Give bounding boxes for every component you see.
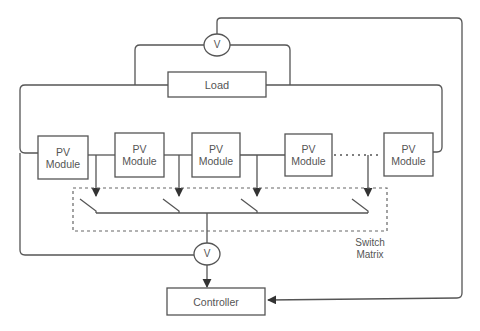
pv-module-3-label: PV Module <box>192 133 240 177</box>
switch-matrix-box <box>73 188 387 231</box>
pv-module-3-line2: Module <box>199 155 233 167</box>
pv-module-2-line1: PV <box>132 143 146 155</box>
pv-module-5-label: PV Module <box>384 133 433 176</box>
switch-4 <box>352 199 368 213</box>
pv-module-5-line2: Module <box>391 155 425 167</box>
pv-module-1-label: PV Module <box>38 136 88 179</box>
voltmeter-top-label: V <box>204 34 230 56</box>
switch-matrix-line1: Switch <box>355 237 384 249</box>
pv-module-2-label: PV Module <box>115 133 164 177</box>
load-label: Load <box>168 72 266 97</box>
switch-matrix-label: Switch Matrix <box>345 236 395 262</box>
pv-module-4-line2: Module <box>291 155 325 167</box>
pv-module-3-line1: PV <box>209 143 223 155</box>
switch-matrix-line2: Matrix <box>356 249 383 261</box>
pv-module-2-line2: Module <box>122 155 156 167</box>
pv-module-4-line1: PV <box>301 143 315 155</box>
pv-module-5-line1: PV <box>401 143 415 155</box>
pv-module-4-label: PV Module <box>285 134 332 176</box>
pv-module-1-line2: Module <box>46 158 80 170</box>
switch-3 <box>241 199 257 213</box>
controller-label: Controller <box>167 288 265 315</box>
switch-2 <box>163 199 179 213</box>
pv-module-1-line1: PV <box>56 146 70 158</box>
voltmeter-bottom-label: V <box>194 243 220 265</box>
switch-1 <box>80 199 96 213</box>
